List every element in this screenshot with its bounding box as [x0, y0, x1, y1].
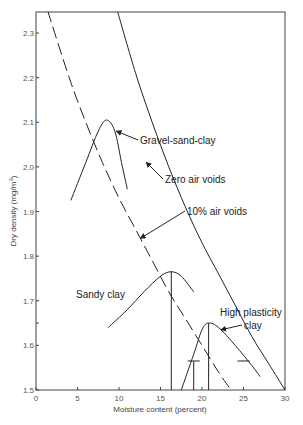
x-tick-label: 25 [239, 394, 248, 403]
y-tick-label: 1.7 [23, 297, 35, 306]
y-tick-label: 1.6 [23, 341, 35, 350]
series-group [48, 11, 285, 390]
y-tick-label: 2.1 [23, 118, 35, 127]
high-plasticity-clay-curve [181, 323, 260, 390]
y-tick-label: 1.5 [23, 386, 35, 395]
annotation-gravel-sand-clay: Gravel-sand-clay [140, 135, 216, 146]
y-tick-label: 2.3 [23, 29, 35, 38]
x-axis-ticks: 051015202530 [34, 387, 290, 403]
annotation-arrows [117, 131, 242, 330]
y-axis-title-main: Dry density (mg/m [9, 181, 18, 246]
y-tick-label: 1.9 [23, 208, 35, 217]
reference-lines [171, 272, 249, 390]
annotation-arrow [141, 211, 185, 238]
x-axis-title: Moisture content (percent) [113, 405, 207, 414]
annotation-arrow [117, 131, 138, 140]
annotation-arrow [146, 162, 163, 179]
x-tick-label: 10 [115, 394, 124, 403]
plot-frame [36, 12, 285, 390]
annotation-high-plasticity-clay-line1: High plasticity [220, 307, 282, 318]
y-axis-title-end: ) [9, 175, 18, 178]
y-tick-label: 1.8 [23, 252, 35, 261]
compaction-chart: 051015202530 1.51.61.71.81.92.02.12.22.3… [0, 0, 303, 425]
annotation-ten-percent-air-voids: 10% air voids [187, 206, 247, 217]
x-tick-label: 5 [75, 394, 80, 403]
10-air-voids-curve [48, 11, 231, 390]
annotation-sandy-clay: Sandy clay [76, 289, 125, 300]
y-tick-label: 2.2 [23, 74, 35, 83]
y-tick-label: 2.0 [23, 163, 35, 172]
zero-air-voids-curve [117, 11, 285, 390]
annotation-zero-air-voids: Zero air voids [165, 174, 226, 185]
x-tick-label: 30 [281, 394, 290, 403]
x-tick-label: 15 [156, 394, 165, 403]
annotation-arrow [221, 325, 242, 330]
x-tick-label: 0 [34, 394, 39, 403]
y-axis-ticks: 1.51.61.71.81.92.02.12.22.3 [23, 29, 39, 395]
plot-border [36, 12, 285, 390]
y-axis-title: Dry density (mg/m3) [8, 175, 18, 246]
x-tick-label: 20 [198, 394, 207, 403]
annotation-high-plasticity-clay-line2: clay [244, 320, 262, 331]
